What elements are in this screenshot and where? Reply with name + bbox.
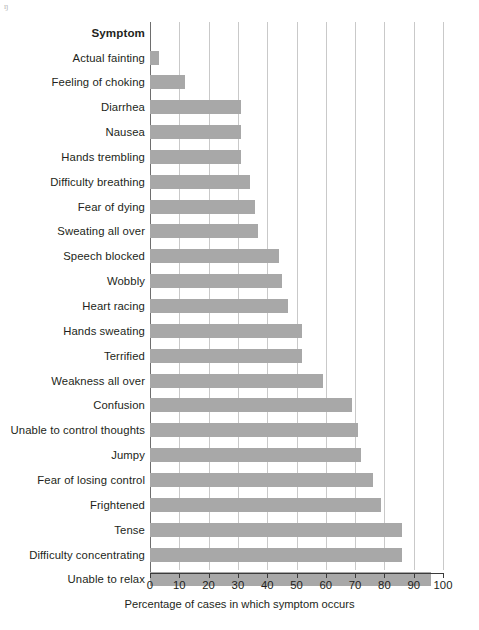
bar-row: Terrified	[0, 344, 479, 369]
x-tick-70	[355, 573, 356, 578]
bar-row: Nausea	[0, 120, 479, 145]
bar-category-label: Terrified	[104, 344, 145, 369]
scan-artifact: ŋ	[4, 2, 14, 11]
bar-category-label: Hands trembling	[61, 145, 145, 170]
bar-row: Sweating all over	[0, 219, 479, 244]
bar-row: Actual fainting	[0, 46, 479, 71]
x-tick-30	[238, 573, 239, 578]
bar-category-label: Fear of losing control	[37, 468, 145, 493]
x-tick-20	[209, 573, 210, 578]
bar	[150, 423, 358, 437]
bar-row: Fear of losing control	[0, 468, 479, 493]
x-tick-0	[150, 573, 151, 578]
bar-category-label: Difficulty concentrating	[29, 543, 145, 568]
x-tick-90	[414, 573, 415, 578]
bar-category-label: Wobbly	[107, 269, 145, 294]
bar-category-label: Speech blocked	[63, 244, 145, 269]
bar-category-label: Feeling of choking	[52, 70, 146, 95]
bar-row: Diarrhea	[0, 95, 479, 120]
bar-category-label: Fear of dying	[78, 195, 145, 220]
category-header-label: Symptom	[91, 21, 145, 46]
bar	[150, 473, 373, 487]
bar	[150, 398, 352, 412]
bar	[150, 75, 185, 89]
bar	[150, 523, 402, 537]
bar-row: Hands trembling	[0, 145, 479, 170]
bar	[150, 274, 282, 288]
category-header-row: Symptom	[0, 21, 479, 46]
bar-row: Speech blocked	[0, 244, 479, 269]
bar-row: Difficulty breathing	[0, 170, 479, 195]
bar	[150, 224, 258, 238]
bar-category-label: Actual fainting	[73, 46, 145, 71]
bar	[150, 548, 402, 562]
bar-category-label: Weakness all over	[51, 369, 145, 394]
bar	[150, 100, 241, 114]
bar-row: Frightened	[0, 493, 479, 518]
bar	[150, 448, 361, 462]
x-tick-label-100: 100	[423, 579, 463, 591]
bar-row: Feeling of choking	[0, 70, 479, 95]
bar	[150, 175, 250, 189]
bar	[150, 374, 323, 388]
bar-category-label: Tense	[114, 518, 145, 543]
bar-row: Heart racing	[0, 294, 479, 319]
x-tick-100	[443, 573, 444, 578]
bar	[150, 324, 302, 338]
x-tick-60	[326, 573, 327, 578]
bar-category-label: Difficulty breathing	[50, 170, 145, 195]
bar-row: Confusion	[0, 393, 479, 418]
bar-row: Weakness all over	[0, 369, 479, 394]
bar-category-label: Heart racing	[82, 294, 145, 319]
bar-row: Wobbly	[0, 269, 479, 294]
x-tick-80	[384, 573, 385, 578]
x-tick-50	[297, 573, 298, 578]
bar-category-label: Frightened	[90, 493, 145, 518]
bar-category-label: Diarrhea	[101, 95, 145, 120]
bar-row: Tense	[0, 518, 479, 543]
bar-row: Jumpy	[0, 443, 479, 468]
bar-row: Fear of dying	[0, 195, 479, 220]
horizontal-bar-chart: ŋ SymptomActual faintingFeeling of choki…	[0, 0, 479, 630]
bar-category-label: Hands sweating	[63, 319, 145, 344]
bar-category-label: Confusion	[93, 393, 145, 418]
bar-category-label: Nausea	[105, 120, 145, 145]
bar	[150, 498, 381, 512]
bar-row: Hands sweating	[0, 319, 479, 344]
bar-row: Difficulty concentrating	[0, 543, 479, 568]
bar	[150, 299, 288, 313]
bar-category-label: Sweating all over	[57, 219, 145, 244]
x-tick-40	[267, 573, 268, 578]
bar	[150, 150, 241, 164]
x-tick-10	[179, 573, 180, 578]
bar-row: Unable to control thoughts	[0, 418, 479, 443]
x-axis-title: Percentage of cases in which symptom occ…	[0, 598, 479, 610]
bar	[150, 51, 159, 65]
bar	[150, 125, 241, 139]
bar-category-label: Jumpy	[111, 443, 145, 468]
bar	[150, 200, 255, 214]
bar	[150, 249, 279, 263]
bar-category-label: Unable to control thoughts	[11, 418, 145, 443]
bar	[150, 349, 302, 363]
